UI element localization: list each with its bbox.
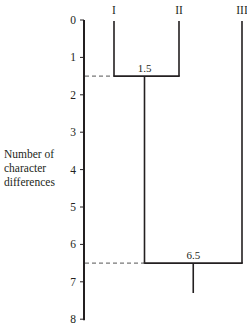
dendrogram: 012345678IIIIII1.56.5 xyxy=(0,0,247,326)
y-axis-tick-label: 6 xyxy=(70,238,76,250)
taxon-label: III xyxy=(236,4,247,16)
join-label: 1.5 xyxy=(138,62,152,74)
y-axis-tick-label: 5 xyxy=(70,201,76,213)
y-axis-tick-label: 1 xyxy=(70,51,76,63)
y-axis-tick-label: 7 xyxy=(70,276,76,288)
y-axis-tick-label: 8 xyxy=(70,313,76,325)
join-label: 6.5 xyxy=(186,249,200,261)
taxon-label: II xyxy=(175,4,183,16)
y-axis-tick-label: 2 xyxy=(70,89,76,101)
y-axis-tick-label: 4 xyxy=(70,164,76,176)
taxon-label: I xyxy=(112,4,116,16)
y-axis-tick-label: 3 xyxy=(70,126,76,138)
y-axis-tick-label: 0 xyxy=(70,14,76,26)
